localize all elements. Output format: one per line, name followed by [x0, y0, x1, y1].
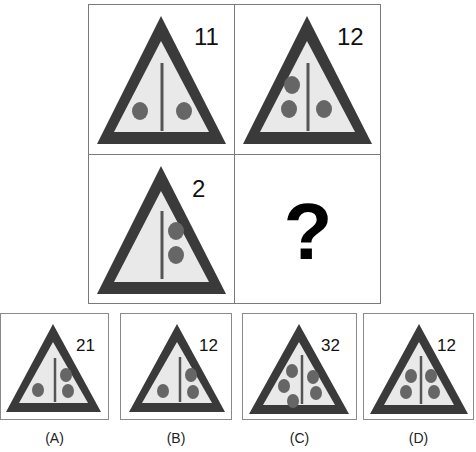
triangle-icon: 12: [235, 5, 381, 154]
triangle-icon: 11: [89, 5, 234, 154]
option-c[interactable]: 32: [242, 313, 357, 420]
dot-icon: [316, 100, 332, 118]
dot-icon: [185, 368, 197, 382]
dot-icon: [405, 369, 417, 383]
option-number: 12: [199, 336, 218, 355]
triangle-icon: 2: [89, 155, 234, 304]
option-number: 21: [76, 336, 95, 355]
option-a[interactable]: 21: [0, 313, 109, 420]
option-d-label: (D): [363, 430, 474, 446]
svg-text:?: ?: [284, 187, 333, 276]
dot-icon: [278, 379, 290, 393]
option-a-label: (A): [0, 430, 109, 446]
cell-number: 12: [337, 23, 364, 50]
option-c-label: (C): [242, 430, 357, 446]
triangle-icon: 12: [364, 314, 473, 419]
dot-icon: [284, 76, 300, 94]
cell-number: 2: [192, 175, 205, 202]
option-number: 12: [437, 336, 456, 355]
question-mark-icon: ?: [235, 155, 381, 304]
dot-icon: [425, 369, 437, 383]
dot-icon: [32, 383, 44, 397]
dot-icon: [286, 364, 298, 378]
dot-icon: [176, 102, 192, 120]
dot-icon: [187, 385, 199, 399]
dot-icon: [168, 246, 184, 264]
dot-icon: [168, 222, 184, 240]
option-b[interactable]: 12: [120, 313, 232, 420]
puzzle-cell-top-left: 11: [89, 5, 234, 154]
dot-icon: [281, 100, 297, 118]
dot-icon: [60, 368, 72, 382]
puzzle-cell-bottom-left: 2: [89, 155, 234, 304]
dot-icon: [400, 385, 412, 399]
dot-icon: [287, 394, 299, 408]
option-d[interactable]: 12: [363, 313, 474, 420]
puzzle-cell-top-right: 12: [235, 5, 381, 154]
cell-number: 11: [194, 23, 219, 50]
dot-icon: [157, 384, 169, 398]
triangle-icon: 32: [243, 314, 356, 419]
dot-icon: [132, 102, 148, 120]
option-b-label: (B): [120, 430, 232, 446]
option-number: 32: [321, 336, 340, 355]
puzzle-grid: 11 12 2 ?: [88, 4, 381, 304]
dot-icon: [307, 370, 319, 384]
dot-icon: [428, 385, 440, 399]
triangle-icon: 12: [121, 314, 231, 419]
triangle-icon: 21: [1, 314, 108, 419]
dot-icon: [62, 384, 74, 398]
puzzle-cell-bottom-right: ?: [235, 155, 381, 304]
dot-icon: [310, 386, 322, 400]
